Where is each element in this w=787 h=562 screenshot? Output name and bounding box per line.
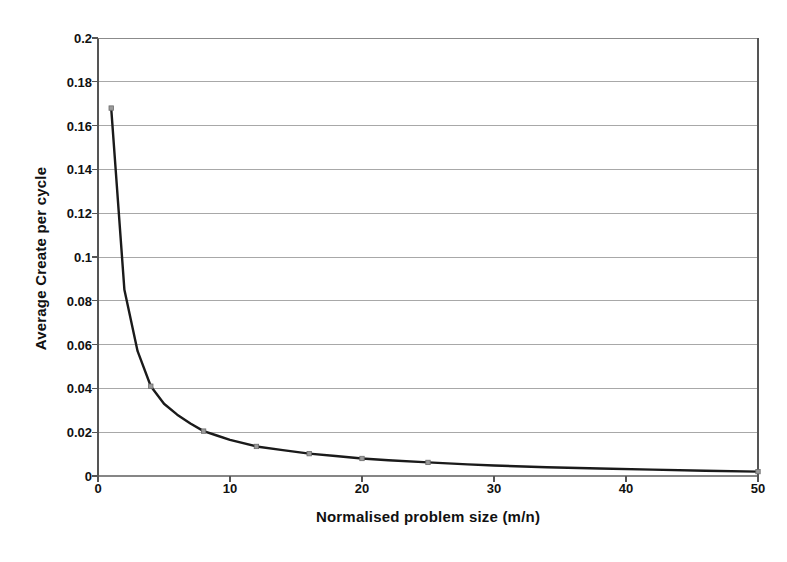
gridlines [98, 38, 758, 476]
y-tick-marks [92, 38, 98, 476]
x-tick-marks [98, 476, 758, 482]
data-point-markers [109, 106, 760, 474]
plot-area [0, 0, 787, 562]
series-line [111, 108, 758, 472]
chart-figure: Average Create per cycle 00.020.040.060.… [0, 0, 787, 562]
x-axis-title: Normalised problem size (m/n) [98, 508, 758, 525]
